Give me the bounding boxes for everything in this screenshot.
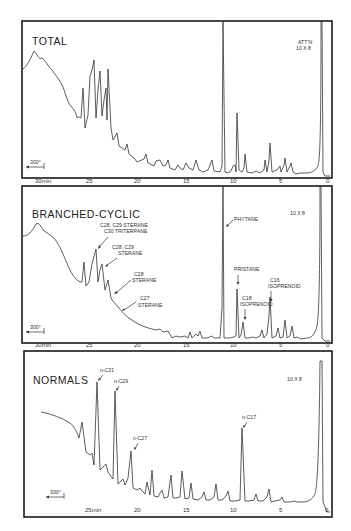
total-trace bbox=[23, 21, 330, 176]
svg-text:300°: 300° bbox=[30, 324, 41, 330]
annotation-c28-c29-sterane: C28, C29 STERANE bbox=[105, 244, 143, 267]
scale-bar-normals: 300° bbox=[46, 489, 64, 499]
svg-text:15: 15 bbox=[183, 507, 190, 513]
svg-text:15: 15 bbox=[183, 342, 190, 348]
svg-text:20: 20 bbox=[134, 178, 141, 184]
svg-text:C27: C27 bbox=[140, 295, 150, 301]
svg-text:10: 10 bbox=[230, 178, 237, 184]
panel-branched-cyclic: BRANCHED-CYCLIC 10 X 8 C28, C29 STERANE … bbox=[22, 186, 332, 348]
svg-text:n-C27: n-C27 bbox=[133, 435, 147, 441]
annotation-n-c31: n-C31 bbox=[98, 367, 114, 381]
att-value: 10 X 8 bbox=[290, 210, 305, 216]
svg-text:5: 5 bbox=[279, 507, 283, 513]
svg-text:15: 15 bbox=[183, 178, 190, 184]
svg-text:20: 20 bbox=[134, 507, 141, 513]
annotation-c27-sterane: C27 STERANE bbox=[122, 295, 163, 311]
panel-total: TOTAL ATT'N 10 X 8 300° 30min 25 20 15 1… bbox=[22, 21, 332, 184]
att-value: 10 X 8 bbox=[287, 376, 302, 382]
svg-text:30min: 30min bbox=[35, 342, 51, 348]
svg-text:20: 20 bbox=[134, 342, 141, 348]
svg-text:0: 0 bbox=[326, 178, 330, 184]
svg-text:C30 TRITERPANE: C30 TRITERPANE bbox=[104, 228, 148, 234]
svg-text:STERANE: STERANE bbox=[138, 302, 163, 308]
svg-text:10: 10 bbox=[230, 342, 237, 348]
annotation-c18-isoprenoid: C18 ISOPRENOID bbox=[240, 295, 273, 320]
att-value: 10 X 8 bbox=[296, 45, 311, 51]
x-axis-total: 30min 25 20 15 10 5 0 bbox=[35, 178, 330, 184]
svg-text:STERANE: STERANE bbox=[118, 250, 143, 256]
svg-text:300°: 300° bbox=[30, 159, 41, 165]
annotation-phytane: PHYTANE bbox=[226, 216, 259, 227]
svg-text:ISOPRENOID: ISOPRENOID bbox=[268, 283, 301, 289]
annotation-c16-isoprenoid: C16 ISOPRENOID bbox=[268, 277, 301, 302]
svg-text:n-C31: n-C31 bbox=[100, 367, 114, 373]
annotation-pristane: PRISTANE bbox=[234, 266, 260, 285]
scale-bar-total: 300° bbox=[26, 159, 44, 169]
svg-text:STERANE: STERANE bbox=[132, 277, 157, 283]
annotation-n-c27: n-C27 bbox=[133, 435, 147, 450]
panel-normals-title: NORMALS bbox=[33, 374, 88, 386]
panel-total-frame bbox=[22, 21, 332, 178]
svg-text:PHYTANE: PHYTANE bbox=[234, 216, 259, 222]
scale-bar-branched: 300° bbox=[26, 324, 44, 334]
svg-text:5: 5 bbox=[279, 178, 283, 184]
svg-text:n-C17: n-C17 bbox=[242, 414, 256, 420]
svg-text:PRISTANE: PRISTANE bbox=[234, 266, 260, 272]
chromatogram-figure: TOTAL ATT'N 10 X 8 300° 30min 25 20 15 1… bbox=[0, 0, 351, 531]
annotation-n-c17: n-C17 bbox=[242, 414, 256, 428]
panel-normals: NORMALS 10 X 8 n-C31 n-C29 n-C27 n-C17 bbox=[24, 351, 332, 517]
x-axis-normals: 25min 20 15 10 5 0 bbox=[85, 507, 329, 513]
svg-text:300°: 300° bbox=[50, 489, 61, 495]
svg-text:25min: 25min bbox=[85, 507, 101, 513]
annotation-c28-sterane: C28 STERANE bbox=[114, 271, 157, 294]
svg-text:n-C29: n-C29 bbox=[114, 378, 128, 384]
svg-text:30min: 30min bbox=[35, 178, 51, 184]
svg-text:25: 25 bbox=[86, 342, 93, 348]
panel-branched-title: BRANCHED-CYCLIC bbox=[32, 208, 140, 220]
annotation-n-c29: n-C29 bbox=[114, 378, 128, 391]
svg-text:10: 10 bbox=[230, 507, 237, 513]
svg-text:25: 25 bbox=[86, 178, 93, 184]
panel-total-title: TOTAL bbox=[32, 35, 67, 47]
svg-text:ISOPRENOID: ISOPRENOID bbox=[240, 301, 273, 307]
